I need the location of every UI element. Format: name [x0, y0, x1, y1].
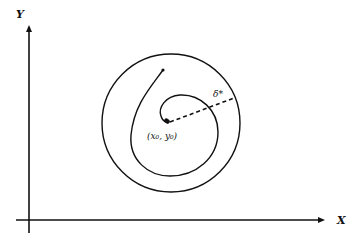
outer-circle [102, 54, 240, 192]
x-axis [16, 217, 325, 223]
radius-label: δ* [213, 89, 223, 99]
x-axis-label: X [336, 214, 346, 227]
y-axis-label: Y [16, 8, 25, 21]
diagram-canvas: Y X δ* (x₀, y₀) [0, 0, 359, 241]
spiral-trajectory [131, 70, 218, 176]
y-axis [26, 25, 32, 233]
y-axis-arrow-icon [26, 25, 32, 32]
x-axis-arrow-icon [318, 217, 325, 223]
spiral-start-dot [161, 68, 164, 71]
center-point [163, 117, 170, 124]
center-label: (x₀, y₀) [147, 131, 178, 141]
